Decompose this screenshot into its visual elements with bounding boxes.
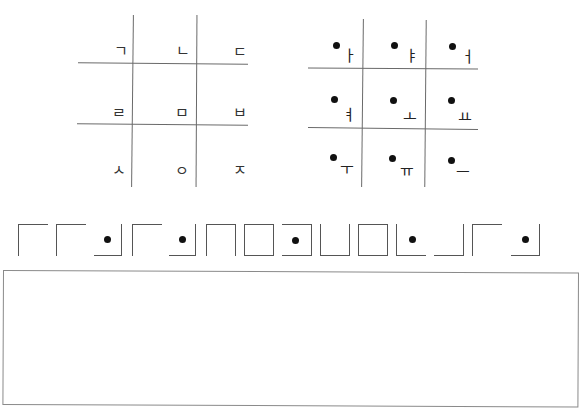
grid-line (131, 15, 134, 187)
cipher-message (0, 224, 583, 260)
dot-marker (179, 236, 186, 243)
cipher-symbol-bottom-right (434, 224, 464, 256)
grid-line (308, 68, 478, 70)
cipher-symbol-left-bottom-dot (396, 224, 426, 256)
grid-line (77, 123, 248, 125)
vowel-eo: ㅓ (461, 49, 475, 65)
cipher-symbol-box (358, 224, 388, 256)
dot-marker (390, 97, 397, 104)
consonant-digeut: ㄷ (217, 44, 247, 60)
grid-line (196, 15, 198, 187)
consonant-jieut: ㅈ (217, 162, 247, 178)
cipher-symbol-top-left (472, 224, 502, 256)
cipher-symbol-top-left (56, 224, 86, 256)
dot-marker (104, 236, 111, 243)
dot-marker (448, 97, 455, 104)
cipher-symbol-bottom-right-dot (169, 224, 196, 256)
dot-marker (292, 237, 299, 244)
consonant-ieung: ㅇ (159, 163, 189, 179)
consonant-siot: ㅅ (96, 162, 126, 178)
dot-marker (522, 236, 529, 243)
dot-marker (389, 155, 396, 162)
cipher-symbol-top-left (18, 224, 48, 256)
vowel-u: ㅜ (340, 161, 354, 177)
vowel-yeo: ㅕ (342, 107, 356, 123)
cipher-symbol-bottom-right-dot (94, 224, 122, 256)
consonant-rieul: ㄹ (96, 105, 126, 121)
grid-line (424, 20, 426, 187)
vowel-yo: ㅛ (458, 109, 472, 125)
dot-marker (331, 96, 338, 103)
vowel-o: ㅗ (403, 109, 417, 125)
consonant-mieum: ㅁ (159, 105, 189, 121)
answer-box[interactable] (2, 270, 579, 408)
grid-line (308, 127, 478, 130)
grid-line (361, 19, 364, 187)
vowel-ya: ㅑ (405, 48, 419, 64)
cipher-symbol-box (244, 224, 274, 256)
consonant-giyeok: ㄱ (98, 43, 128, 59)
dot-marker (409, 236, 416, 243)
cipher-symbol-top-left (132, 224, 162, 256)
cipher-symbol-top-left-right (206, 224, 236, 256)
dot-marker (449, 43, 456, 50)
consonant-nieun: ㄴ (160, 43, 190, 59)
vowel-a: ㅏ (343, 48, 357, 64)
consonant-bieup: ㅂ (217, 105, 247, 121)
dot-marker (330, 154, 337, 161)
cipher-symbol-left-bottom-right (320, 224, 350, 256)
dot-marker (448, 157, 455, 164)
grid-line (78, 62, 248, 64)
vowel-eu: ㅡ (456, 164, 470, 180)
cipher-symbol-top-right-bottom-dot (282, 224, 312, 256)
dot-marker (333, 42, 340, 49)
vowel-yu: ㅠ (400, 163, 414, 179)
cipher-symbol-bottom-right-dot (511, 224, 540, 256)
dot-marker (391, 42, 398, 49)
